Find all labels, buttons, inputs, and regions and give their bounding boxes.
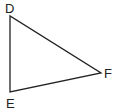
- triangle-def: [10, 16, 101, 92]
- vertex-label-f: F: [104, 66, 112, 81]
- triangle-diagram: D E F: [0, 0, 121, 112]
- vertex-label-e: E: [6, 96, 15, 111]
- vertex-label-d: D: [5, 1, 14, 16]
